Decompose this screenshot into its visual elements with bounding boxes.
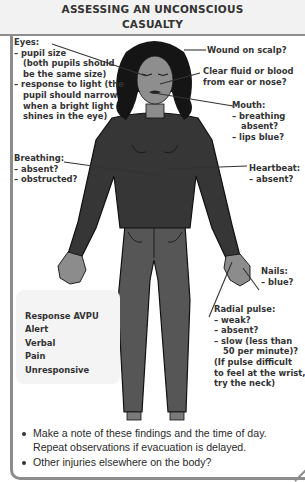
note-item: Other injuries elsewhere on the body? (22, 456, 302, 470)
avpu-heading: Response AVPU (25, 310, 99, 323)
mouth-heading: Mouth: (232, 100, 285, 111)
radial-pulse-line: (If pulse difficult (214, 357, 305, 368)
avpu-list: Response AVPU Alert Verbal Pain Unrespon… (25, 310, 99, 377)
nails-heading: Nails: (261, 266, 293, 277)
note-text: Other injuries elsewhere on the body? (33, 456, 211, 468)
mouth-line: absent? (232, 121, 285, 132)
breathing-line: – obstructed? (14, 174, 77, 185)
mouth-line: – lips blue? (232, 132, 285, 143)
avpu-item-unresponsive: Unresponsive (25, 364, 99, 377)
scalp-heading: Wound on scalp? (207, 45, 286, 56)
mouth-line: – breathing (232, 111, 285, 122)
radial-pulse-line: – absent? (214, 325, 305, 336)
eyes-line: when a bright light (14, 101, 124, 112)
eyes-line: – response to light (the (14, 79, 124, 90)
pants-graphic (118, 225, 190, 420)
label-eyes: Eyes: – pupil size (both pupils should b… (14, 37, 124, 122)
label-mouth: Mouth: – breathing absent? – lips blue? (232, 100, 285, 142)
radial-pulse-line: try the neck) (214, 378, 305, 389)
nails-line: – blue? (261, 277, 293, 288)
fluid-line: Clear fluid or blood (203, 66, 294, 77)
radial-pulse-line: – slow (less than (214, 336, 305, 347)
eyes-line: – pupil size (14, 48, 124, 59)
label-radial-pulse: Radial pulse: – weak? – absent? – slow (… (214, 304, 305, 389)
avpu-item-pain: Pain (25, 350, 99, 363)
eyes-line: be the same size) (14, 69, 124, 80)
label-breathing: Breathing: – absent? – obstructed? (14, 153, 77, 185)
eyes-line: shines in the eye) (14, 111, 124, 122)
radial-pulse-line: to feel at the wrist, (214, 368, 305, 379)
face-graphic (137, 56, 173, 104)
note-text: Make a note of these findings and the ti… (33, 427, 267, 453)
label-wound-on-scalp: Wound on scalp? (207, 45, 286, 56)
fluid-line: from ear or nose? (203, 77, 294, 88)
neck-graphic (146, 104, 164, 118)
note-item: Make a note of these findings and the ti… (22, 427, 302, 455)
radial-pulse-heading: Radial pulse: (214, 304, 305, 315)
bullet-icon (22, 461, 26, 465)
avpu-item-verbal: Verbal (25, 337, 99, 350)
radial-pulse-line: – weak? (214, 315, 305, 326)
notes-list: Make a note of these findings and the ti… (22, 427, 302, 470)
avpu-item-alert: Alert (25, 323, 99, 336)
radial-pulse-line: 50 per minute)? (214, 346, 305, 357)
label-heartbeat: Heartbeat: – absent? (249, 163, 300, 184)
eyes-line: pupil should narrow (14, 90, 124, 101)
eyes-line: (both pupils should (14, 58, 124, 69)
label-nails: Nails: – blue? (261, 266, 293, 287)
heartbeat-line: – absent? (249, 174, 300, 185)
breathing-heading: Breathing: (14, 153, 77, 164)
heartbeat-heading: Heartbeat: (249, 163, 300, 174)
eyes-heading: Eyes: (14, 37, 124, 48)
label-clear-fluid: Clear fluid or blood from ear or nose? (203, 66, 294, 87)
breathing-line: – absent? (14, 164, 77, 175)
bullet-icon (22, 432, 26, 436)
